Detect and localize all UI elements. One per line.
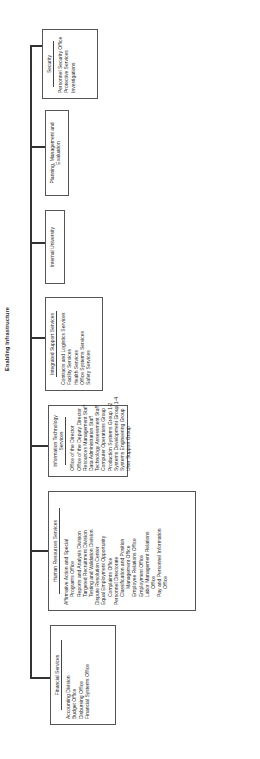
unit-item: Office — [162, 497, 168, 605]
unit-planning-management-evaluation: Planning, Management and Evaluation — [45, 110, 69, 196]
unit-internal-university: Internal University — [45, 210, 65, 284]
connector-financial — [30, 677, 50, 679]
unit-item: Financial Systems Office — [84, 631, 90, 719]
unit-financial-services: Financial Services Accounting Division B… — [50, 625, 116, 725]
unit-human-resources-services: Human Resources Services Affirmative Act… — [48, 491, 196, 611]
unit-integrated-support-services: Integrated Support Services Contracts an… — [45, 297, 103, 391]
unit-title: Information Technology Services — [52, 411, 66, 471]
connector-internal-university — [30, 242, 45, 244]
unit-title: Planning, Management and Evaluation — [49, 122, 61, 184]
unit-title: Integrated Support Services — [49, 303, 57, 385]
org-chart: Enabling Infrastructure Financial Servic… — [0, 0, 260, 759]
chart-title: Enabling Infrastructure — [4, 279, 10, 399]
unit-item: Safety Services — [85, 303, 91, 385]
connector-security — [30, 45, 42, 47]
unit-item: Production Systems Group 1-2 — [107, 411, 113, 471]
unit-item: Computer Operations Group — [100, 411, 106, 471]
connector-integrated-support — [30, 337, 45, 339]
connector-planning — [30, 146, 45, 148]
unit-title: Human Resources Services — [52, 497, 60, 605]
unit-item: Investigations — [70, 35, 76, 93]
unit-item: Office of the Deputy Director — [76, 411, 82, 471]
unit-title: Financial Services — [54, 631, 62, 719]
unit-information-technology-services: Information Technology Services Office o… — [48, 405, 128, 477]
unit-title: Internal University — [49, 227, 55, 267]
unit-title: Security — [46, 35, 54, 93]
connector-it — [30, 445, 48, 447]
connector-spine — [30, 45, 32, 679]
unit-security: Security Personnel Security Office Prote… — [42, 29, 98, 99]
connector-human-resources — [30, 550, 48, 552]
unit-item: User Support Group — [125, 411, 131, 471]
